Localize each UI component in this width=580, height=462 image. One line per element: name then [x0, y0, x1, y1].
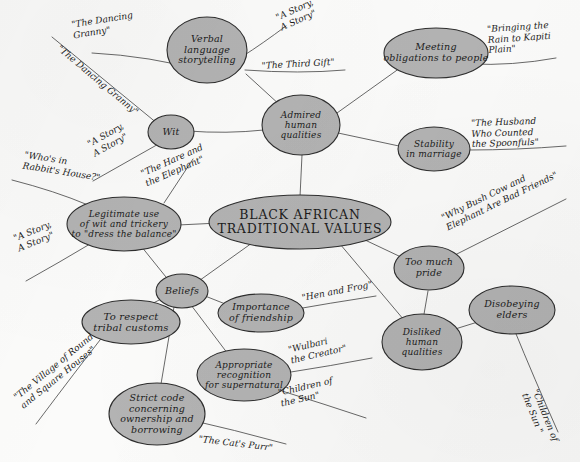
- node-beliefs[interactable]: [156, 274, 208, 308]
- node-center[interactable]: [209, 195, 391, 249]
- node-stability[interactable]: [398, 127, 470, 171]
- node-disliked[interactable]: [382, 314, 462, 370]
- node-appropriate[interactable]: [197, 349, 291, 401]
- node-legitimate[interactable]: [67, 197, 181, 251]
- node-meeting[interactable]: [384, 28, 488, 78]
- mind-map-canvas: BLACK AFRICAN TRADITIONAL VALUES Admired…: [0, 0, 580, 462]
- node-disobeying[interactable]: [469, 286, 555, 334]
- node-importance[interactable]: [218, 294, 304, 332]
- node-respect[interactable]: [82, 300, 180, 344]
- node-admired[interactable]: [262, 95, 340, 155]
- node-wit[interactable]: [148, 115, 194, 149]
- node-layer: [0, 0, 580, 462]
- node-verbal[interactable]: [167, 17, 247, 83]
- node-strict[interactable]: [109, 383, 205, 445]
- node-pride[interactable]: [394, 246, 464, 290]
